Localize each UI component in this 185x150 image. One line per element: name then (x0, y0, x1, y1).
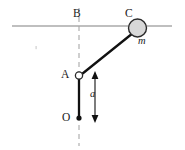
pivot-dot-o (76, 115, 81, 120)
label-point-a: A (61, 69, 69, 81)
pendulum-diagram: B C m A a O (0, 0, 185, 150)
label-mass-m: m (138, 36, 146, 47)
rod-segment-ac (80, 33, 134, 76)
hinge-ring-a (75, 72, 82, 79)
label-point-b: B (73, 8, 81, 20)
speck-artifact (36, 46, 37, 49)
label-point-o: O (62, 112, 70, 124)
label-distance-a: a (90, 89, 95, 100)
diagram-canvas (0, 0, 185, 150)
label-point-c: C (125, 8, 133, 20)
